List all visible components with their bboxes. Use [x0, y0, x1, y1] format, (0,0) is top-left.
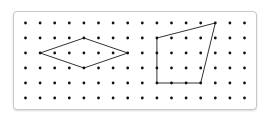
- grid-dot: [97, 97, 100, 100]
- grid-dot: [185, 52, 188, 55]
- grid-dot: [83, 22, 86, 25]
- grid-dot: [112, 37, 115, 40]
- grid-dot: [185, 82, 188, 85]
- grid-dot: [170, 82, 173, 85]
- grid-dot: [156, 97, 159, 100]
- grid-dot: [39, 22, 42, 25]
- grid-dot: [141, 37, 144, 40]
- grid-dot: [229, 37, 232, 40]
- grid-dot: [170, 52, 173, 55]
- grid-dot: [214, 67, 217, 70]
- grid-dot: [185, 97, 188, 100]
- grid-dot: [68, 97, 71, 100]
- grid-dot: [243, 37, 246, 40]
- grid-dot: [97, 82, 100, 85]
- grid-dot: [39, 67, 42, 70]
- grid-dot: [141, 22, 144, 25]
- grid-dot: [214, 22, 217, 25]
- grid-dot: [126, 67, 129, 70]
- grid-dot: [53, 67, 56, 70]
- grid-dot: [141, 82, 144, 85]
- grid-dot: [97, 22, 100, 25]
- grid-dot: [199, 67, 202, 70]
- grid-dot: [199, 82, 202, 85]
- grid-dot: [24, 52, 27, 55]
- grid-dot: [83, 82, 86, 85]
- grid-dot: [141, 97, 144, 100]
- grid-dot: [97, 52, 100, 55]
- grid-dot: [229, 52, 232, 55]
- grid-dot: [141, 67, 144, 70]
- dot-grid: [0, 0, 269, 117]
- grid-dot: [112, 22, 115, 25]
- grid-dot: [24, 97, 27, 100]
- grid-dot: [243, 22, 246, 25]
- grid-dot: [185, 67, 188, 70]
- grid-dot: [243, 67, 246, 70]
- grid-dot: [39, 52, 42, 55]
- grid-dot: [214, 82, 217, 85]
- grid-dot: [199, 22, 202, 25]
- grid-dot: [170, 22, 173, 25]
- grid-dot: [199, 52, 202, 55]
- grid-dot: [156, 82, 159, 85]
- grid-dot: [170, 37, 173, 40]
- grid-dot: [39, 82, 42, 85]
- grid-dot: [199, 37, 202, 40]
- grid-dot: [214, 37, 217, 40]
- grid-dot: [243, 82, 246, 85]
- grid-dot: [68, 82, 71, 85]
- grid-dot: [170, 67, 173, 70]
- grid-dot: [39, 97, 42, 100]
- grid-dot: [156, 67, 159, 70]
- grid-dot: [24, 82, 27, 85]
- grid-dot: [97, 67, 100, 70]
- grid-dot: [53, 82, 56, 85]
- grid-dot: [112, 67, 115, 70]
- grid-dot: [126, 82, 129, 85]
- grid-dot: [214, 52, 217, 55]
- grid-dot: [68, 67, 71, 70]
- grid-dot: [68, 37, 71, 40]
- grid-dot: [229, 97, 232, 100]
- grid-dot: [53, 52, 56, 55]
- grid-dot: [53, 97, 56, 100]
- grid-dot: [53, 37, 56, 40]
- grid-dot: [199, 97, 202, 100]
- grid-dot: [214, 97, 217, 100]
- grid-dot: [185, 22, 188, 25]
- grid-dot: [170, 97, 173, 100]
- grid-dot: [185, 37, 188, 40]
- grid-dot: [112, 82, 115, 85]
- grid-dot: [126, 97, 129, 100]
- grid-dot: [126, 37, 129, 40]
- grid-dot: [126, 22, 129, 25]
- grid-dot: [24, 22, 27, 25]
- grid-dot: [83, 67, 86, 70]
- grid-dot: [24, 37, 27, 40]
- grid-dot: [243, 97, 246, 100]
- grid-dot: [156, 52, 159, 55]
- grid-dot: [68, 22, 71, 25]
- grid-dot: [229, 22, 232, 25]
- grid-dot: [156, 37, 159, 40]
- grid-dot: [112, 97, 115, 100]
- grid-dot: [126, 52, 129, 55]
- grid-dot: [229, 67, 232, 70]
- grid-dot: [229, 82, 232, 85]
- grid-dot: [53, 22, 56, 25]
- grid-dot: [97, 37, 100, 40]
- grid-dot: [141, 52, 144, 55]
- grid-dot: [83, 52, 86, 55]
- grid-dot: [83, 97, 86, 100]
- grid-dot: [24, 67, 27, 70]
- grid-dot: [39, 37, 42, 40]
- grid-dot: [156, 22, 159, 25]
- grid-dot: [68, 52, 71, 55]
- grid-dot: [243, 52, 246, 55]
- grid-dot: [83, 37, 86, 40]
- grid-dot: [112, 52, 115, 55]
